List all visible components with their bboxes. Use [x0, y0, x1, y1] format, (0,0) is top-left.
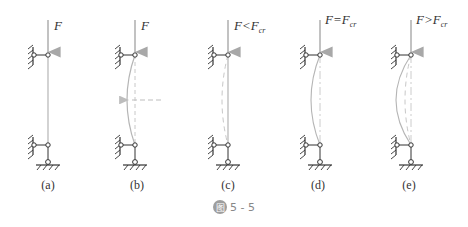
panel-caption-a: (a) — [41, 178, 54, 192]
svg-text:(c): (c) — [221, 178, 234, 192]
buckling-diagram: F (a) F (b) F<Fcr — [0, 0, 468, 227]
panel-b: F (b) — [115, 18, 161, 192]
svg-text:(d): (d) — [311, 178, 325, 192]
panel-d: F=Fcr (d) — [300, 12, 357, 192]
svg-text:(e): (e) — [402, 178, 415, 192]
panel-e: F>Fcr (e) — [391, 12, 448, 192]
svg-text:F>Fcr: F>Fcr — [415, 12, 448, 29]
svg-text:F<Fcr: F<Fcr — [233, 18, 266, 35]
caption-number: 5 - 5 — [230, 201, 255, 214]
figure-caption: 图 5 - 5 — [213, 200, 255, 214]
svg-text:F: F — [140, 18, 150, 33]
svg-text:(b): (b) — [130, 178, 144, 192]
panel-c: F<Fcr (c) — [208, 18, 266, 192]
force-label-a: F — [53, 18, 63, 33]
caption-icon-glyph: 图 — [216, 203, 225, 213]
svg-text:F=Fcr: F=Fcr — [324, 12, 357, 29]
panel-a: F (a) — [28, 18, 63, 192]
